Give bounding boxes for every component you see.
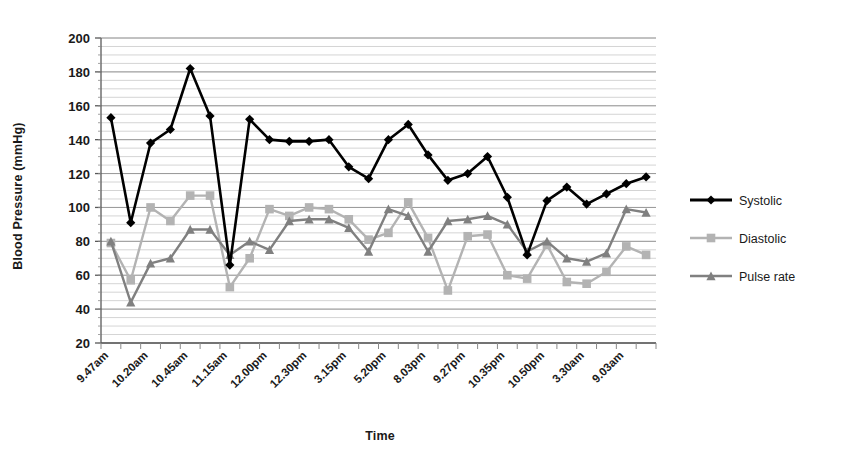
x-tick-label: 9.03am	[590, 349, 626, 385]
data-point	[602, 268, 611, 277]
data-point	[424, 234, 433, 243]
data-point	[285, 137, 294, 146]
y-tick-label: 100	[68, 200, 90, 215]
data-point	[305, 203, 314, 212]
data-point	[325, 205, 334, 214]
legend-label: Systolic	[739, 194, 782, 208]
data-point	[622, 179, 631, 188]
data-point	[483, 230, 492, 239]
data-point	[126, 218, 135, 227]
x-tick-label: 12.00pm	[228, 349, 269, 390]
x-axis-title: Time	[365, 429, 395, 443]
data-point	[226, 283, 235, 292]
chart-svg: 20406080100120140160180200 9.47am10.20am…	[0, 0, 846, 464]
x-tick-label: 12.30pm	[268, 349, 309, 390]
y-tick-label: 20	[76, 336, 90, 351]
data-point	[305, 137, 314, 146]
data-point	[186, 191, 195, 200]
y-axis-title: Blood Pressure (mmHg)	[11, 122, 25, 269]
data-point	[384, 229, 393, 238]
data-point	[245, 254, 254, 263]
y-tick-label: 180	[68, 65, 90, 80]
x-tick-label: 8.03pm	[391, 349, 428, 386]
data-point	[146, 203, 155, 212]
data-point	[265, 205, 274, 214]
data-point	[206, 191, 215, 200]
data-point	[126, 298, 135, 307]
legend-marker-square	[707, 234, 716, 243]
y-axis	[95, 38, 101, 343]
x-tick-label: 9.47am	[74, 349, 110, 385]
y-tick-label: 160	[68, 99, 90, 114]
data-point	[205, 111, 214, 120]
y-tick-label: 140	[68, 133, 90, 148]
x-tick-label: 10.50pm	[505, 349, 546, 390]
data-point	[384, 205, 393, 214]
data-point	[642, 251, 651, 260]
x-axis	[101, 343, 656, 349]
x-tick-label: 10.35pm	[466, 349, 507, 390]
x-tick-label: 10.20am	[109, 349, 150, 390]
data-point	[523, 274, 532, 283]
x-tick-label: 3.30am	[550, 349, 586, 385]
data-point	[622, 242, 631, 251]
data-point	[344, 215, 353, 224]
y-tick-label: 40	[76, 302, 90, 317]
y-tick-label: 80	[76, 234, 90, 249]
y-tick-labels: 20406080100120140160180200	[68, 31, 90, 351]
data-point	[563, 278, 572, 287]
series-diastolic	[107, 191, 651, 294]
blood-pressure-chart: 20406080100120140160180200 9.47am10.20am…	[0, 0, 846, 464]
data-point	[166, 217, 175, 226]
x-tick-label: 9.27pm	[431, 349, 468, 386]
x-tick-label: 11.15am	[189, 349, 229, 389]
x-tick-label: 5.20pm	[351, 349, 388, 386]
legend-label: Pulse rate	[739, 270, 795, 284]
data-point	[444, 286, 453, 295]
data-point	[126, 276, 135, 285]
y-tick-label: 200	[68, 31, 90, 46]
legend-marker-diamond	[706, 195, 715, 204]
series-pulse-rate	[106, 205, 650, 307]
y-tick-label: 120	[68, 167, 90, 182]
data-point	[503, 271, 512, 280]
legend-label: Diastolic	[739, 232, 786, 246]
x-tick-labels: 9.47am10.20am10.45am11.15am12.00pm12.30p…	[74, 349, 625, 390]
series-systolic	[106, 64, 650, 270]
x-tick-label: 3.15pm	[312, 349, 349, 386]
data-point	[503, 193, 512, 202]
y-tick-label: 60	[76, 268, 90, 283]
data-point	[463, 232, 472, 241]
chart-legend: SystolicDiastolicPulse rate	[690, 194, 795, 284]
data-point	[582, 279, 591, 288]
data-series-layer	[106, 64, 650, 307]
data-point	[404, 198, 413, 207]
x-tick-label: 10.45am	[149, 349, 190, 390]
